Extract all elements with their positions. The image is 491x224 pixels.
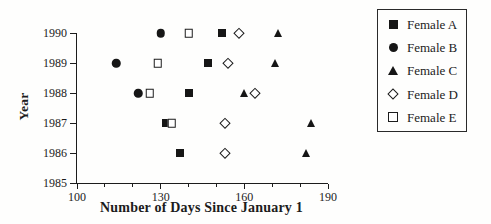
filled-square-icon [389, 20, 398, 29]
point-female-c-1988 [240, 89, 248, 97]
legend-label-female-a: Female A [407, 18, 457, 31]
point-female-d-1990 [233, 28, 244, 39]
legend-item-female-e: Female E [386, 111, 466, 124]
y-tick-label-1987: 1987 [31, 117, 67, 129]
point-female-b-1990 [156, 29, 165, 38]
x-tick-170 [272, 184, 273, 187]
point-female-d-1989 [222, 58, 233, 69]
y-tick-label-1989: 1989 [31, 57, 67, 69]
y-axis-label: Year [16, 87, 31, 127]
legend-marker-box [386, 66, 400, 75]
y-tick-1986 [70, 153, 76, 154]
x-tick-100 [77, 184, 78, 189]
point-female-c-1989 [271, 59, 279, 67]
x-tick-180 [300, 184, 301, 187]
legend-marker-box [386, 112, 400, 122]
point-female-e-1990 [184, 29, 193, 38]
legend-item-female-c: Female C [386, 64, 466, 77]
legend-label-female-d: Female D [407, 88, 458, 101]
point-female-a-1986 [176, 149, 184, 157]
y-tick-1989 [70, 63, 76, 64]
open-square-icon [388, 112, 398, 122]
figure: Year 19901989198819871986198510013016019… [0, 0, 491, 224]
open-diamond-icon [387, 88, 398, 99]
legend: Female AFemale BFemale CFemale DFemale E [377, 9, 467, 132]
x-tick-130 [160, 184, 161, 189]
legend-marker-box [386, 90, 400, 98]
y-tick-label-1986: 1986 [31, 147, 67, 159]
legend-marker-box [386, 43, 400, 52]
legend-item-female-b: Female B [386, 41, 466, 54]
y-tick-1985 [70, 183, 76, 184]
point-female-e-1987 [168, 119, 177, 128]
legend-label-female-b: Female B [407, 41, 457, 54]
point-female-c-1990 [274, 29, 282, 37]
y-tick-1987 [70, 123, 76, 124]
legend-marker-box [386, 20, 400, 29]
point-female-d-1987 [219, 118, 230, 129]
x-tick-150 [216, 184, 217, 187]
point-female-b-1988 [134, 89, 143, 98]
point-female-a-1990 [218, 29, 226, 37]
point-female-c-1986 [302, 149, 310, 157]
y-tick-label-1990: 1990 [31, 27, 67, 39]
filled-triangle-icon [388, 66, 398, 75]
x-tick-110 [104, 184, 105, 187]
legend-item-female-a: Female A [386, 18, 466, 31]
point-female-b-1989 [112, 59, 121, 68]
point-female-c-1987 [307, 119, 315, 127]
x-axis-label: Number of Days Since January 1 [76, 200, 327, 216]
legend-item-female-d: Female D [386, 88, 466, 101]
point-female-a-1988 [185, 89, 193, 97]
y-tick-label-1985: 1985 [31, 177, 67, 189]
y-tick-1988 [70, 93, 76, 94]
x-tick-120 [132, 184, 133, 187]
legend-label-female-c: Female C [407, 64, 457, 77]
point-female-e-1988 [145, 89, 154, 98]
legend-label-female-e: Female E [407, 111, 456, 124]
y-tick-label-1988: 1988 [31, 87, 67, 99]
x-tick-160 [244, 184, 245, 189]
point-female-d-1986 [219, 148, 230, 159]
x-tick-190 [328, 184, 329, 189]
point-female-d-1988 [250, 88, 261, 99]
plot-area: 199019891988198719861985100130160190 [76, 33, 328, 184]
point-female-e-1989 [154, 59, 163, 68]
filled-circle-icon [389, 43, 398, 52]
x-tick-140 [188, 184, 189, 187]
point-female-a-1989 [204, 59, 212, 67]
y-tick-1990 [70, 33, 76, 34]
